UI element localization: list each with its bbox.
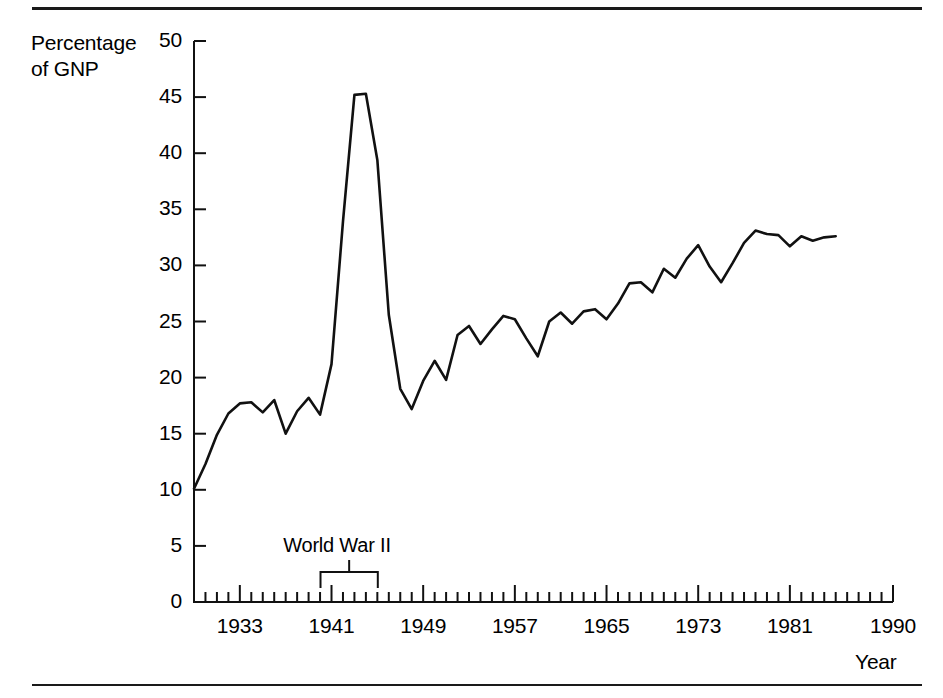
x-tick-label: 1933	[205, 614, 275, 638]
x-tick-label: 1941	[297, 614, 367, 638]
y-tick-label: 20	[140, 365, 182, 389]
y-tick-label: 0	[140, 589, 182, 613]
x-tick-label: 1957	[480, 614, 550, 638]
chart-figure: Percentage of GNP Year World War II 0510…	[0, 0, 943, 698]
axes	[194, 41, 893, 602]
x-tick-label: 1949	[388, 614, 458, 638]
x-tick-label: 1965	[572, 614, 642, 638]
y-tick-label: 30	[140, 252, 182, 276]
y-tick-label: 25	[140, 309, 182, 333]
y-tick-label: 40	[140, 140, 182, 164]
y-tick-label: 15	[140, 421, 182, 445]
x-tick-label: 1973	[663, 614, 733, 638]
y-tick-label: 5	[140, 533, 182, 557]
y-tick-label: 10	[140, 477, 182, 501]
axis-ticks	[194, 41, 893, 602]
data-series	[194, 94, 836, 489]
x-tick-label: 1990	[858, 614, 928, 638]
y-tick-label: 35	[140, 196, 182, 220]
x-tick-label: 1981	[755, 614, 825, 638]
annotation-bracket	[321, 560, 378, 588]
y-tick-label: 50	[140, 28, 182, 52]
y-tick-label: 45	[140, 84, 182, 108]
